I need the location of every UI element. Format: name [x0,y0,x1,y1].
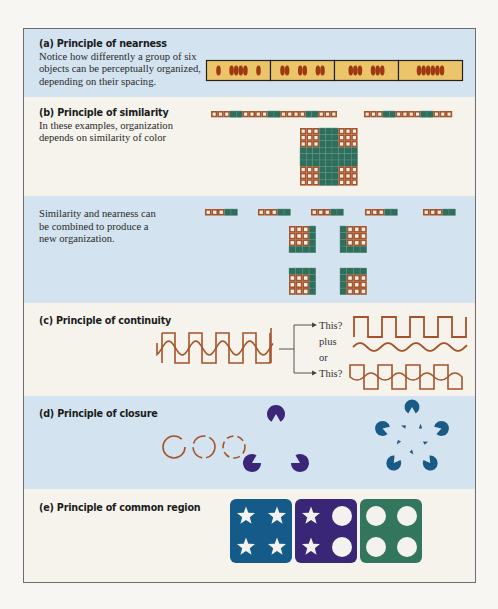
green-square [278,209,285,216]
green-square [332,179,338,185]
open-square [281,112,286,117]
green-square [274,111,280,117]
green-square [225,209,232,216]
wedge-fragment [410,450,414,455]
green-square [337,209,344,216]
dot-icon [435,66,440,76]
green-square [313,147,319,153]
green-square [306,160,312,166]
open-square [243,112,248,117]
open-square [297,282,302,287]
wedge-fragment [401,423,407,429]
green-square [345,154,351,160]
dot-icon [417,66,422,76]
open-square [346,174,351,179]
open-square [290,276,295,281]
dot-icon [285,66,290,76]
circle-gap-1 [163,436,185,458]
dot-icon [239,66,244,76]
open-square [339,180,344,185]
nearness-cell [271,61,335,81]
green-square [326,173,332,179]
open-square [303,227,308,232]
circle-icon [366,537,386,557]
open-square [430,210,435,215]
green-square [338,147,344,153]
open-square [319,112,324,117]
open-square [290,234,295,239]
green-square [326,160,332,166]
green-square [306,111,312,117]
option-this-1: This? [319,320,343,331]
green-square [231,209,238,216]
open-square [303,240,308,245]
dot-icon [229,66,234,76]
open-square [332,112,337,117]
open-square [297,234,302,239]
green-square [338,154,344,160]
open-square [354,234,359,239]
green-square [385,209,392,216]
dot-icon [280,66,285,76]
open-square [314,167,319,172]
cup-shape [378,365,392,380]
open-square [318,210,323,215]
open-square [379,210,384,215]
green-square [319,154,325,160]
open-square [346,180,351,185]
green-square [340,288,347,295]
open-square [303,289,308,294]
nearness-title: (a) Principle of nearness [39,38,201,51]
open-square [361,234,366,239]
open-square [437,210,442,215]
green-square [296,268,303,275]
open-square [272,210,277,215]
open-square [415,112,420,117]
green-square [340,246,347,253]
open-square [361,276,366,281]
green-square [309,233,316,240]
green-square [313,154,319,160]
green-square [296,246,303,253]
open-square [297,289,302,294]
arch-shape [364,373,378,389]
green-square [309,239,316,246]
open-square [259,210,264,215]
open-square [314,142,319,147]
open-square [366,210,371,215]
section-similarity: (b) Principle of similarity In these exa… [24,97,475,196]
common-region-diagram [24,489,476,583]
nearness-text: (a) Principle of nearness Notice how dif… [39,38,201,88]
section-closure: (d) Principle of closure [24,396,475,489]
pacman-icon [375,421,390,436]
circle-icon [366,506,386,526]
dot-icon [371,66,376,76]
open-square [314,135,319,140]
green-square [319,147,325,153]
green-square [338,160,344,166]
dot-icon [348,66,353,76]
green-square [351,154,357,160]
similarity-grids [24,97,476,196]
dot-icon [380,66,385,76]
open-square [440,112,445,117]
green-square [309,268,316,275]
green-square [389,111,395,117]
pacman-icon [291,454,309,472]
open-square [301,135,306,140]
dot-icon [431,66,436,76]
open-square [265,210,270,215]
wedge-fragment [418,424,424,430]
open-square [352,167,357,172]
green-square [300,154,306,160]
open-square [352,129,357,134]
open-square [301,129,306,134]
pacman-icon [243,454,261,472]
green-square [351,147,357,153]
open-square [339,174,344,179]
open-square [424,210,429,215]
sine-wave-option [353,343,467,351]
open-square [348,240,353,245]
nearness-cell [399,61,463,81]
open-square [287,112,292,117]
